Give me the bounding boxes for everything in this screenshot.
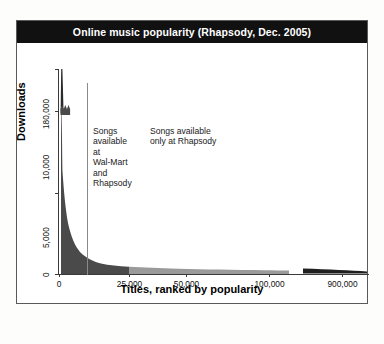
- x-tick-mark-50000: [186, 274, 187, 277]
- x-tick-mark-25000: [129, 274, 130, 277]
- y-tick-180000: 180,000: [41, 99, 51, 129]
- annotation-divider: [87, 83, 88, 275]
- annotation-walmart-rhapsody: Songs available at Wal-Mart and Rhapsody: [93, 126, 132, 188]
- chart-title-bar: Online music popularity (Rhapsody, Dec. …: [17, 21, 367, 43]
- chart-screenshot: Online music popularity (Rhapsody, Dec. …: [0, 0, 384, 344]
- x-axis-line: [58, 274, 369, 275]
- x-axis-label: Titles, ranked by popularity: [17, 283, 367, 295]
- annotation-rhapsody-only: Songs available only at Rhapsody: [150, 126, 216, 147]
- x-tick-mark-900000: [342, 274, 343, 277]
- x-tick-mark-0: [59, 274, 60, 277]
- chart-card: Online music popularity (Rhapsody, Dec. …: [16, 20, 368, 304]
- x-tick-mark-100000: [269, 274, 270, 277]
- y-axis-label: Downloads: [15, 82, 27, 141]
- axis-break-marker: [61, 105, 71, 115]
- curve-segment-far-tail: [303, 269, 367, 274]
- chart-title: Online music popularity (Rhapsody, Dec. …: [73, 26, 311, 38]
- y-tick-5000: 5,000: [41, 227, 51, 248]
- y-tick-0: 0: [41, 272, 51, 277]
- y-tick-10000: 10,000: [41, 155, 51, 180]
- curve-segment-rhapsody-only: [129, 267, 289, 274]
